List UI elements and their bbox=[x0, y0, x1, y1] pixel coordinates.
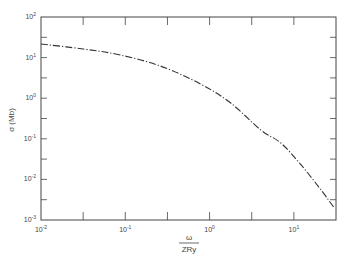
x-tick-label: 10-1 bbox=[119, 224, 131, 233]
x-tick-label: 101 bbox=[289, 224, 300, 233]
x-axis-ticks bbox=[83, 17, 294, 220]
x-tick-label: 10-2 bbox=[35, 224, 47, 233]
y-tick-label: 10-2 bbox=[24, 173, 36, 182]
x-axis-label-denominator: ZRy bbox=[182, 245, 197, 254]
y-tick-label: 102 bbox=[25, 11, 36, 20]
y-tick-label: 10-3 bbox=[24, 214, 36, 223]
y-tick-label: 10-1 bbox=[24, 133, 36, 142]
x-axis-tick-labels: 10-210-1100101 bbox=[35, 224, 300, 233]
y-axis-tick-labels: 10210110010-110-210-3 bbox=[24, 11, 36, 223]
y-tick-label: 101 bbox=[25, 52, 36, 61]
cross-section-chart: 10210110010-110-210-3 10-210-1100101 σ (… bbox=[0, 0, 347, 263]
cross-section-curve bbox=[41, 44, 334, 208]
x-tick-label: 100 bbox=[204, 224, 215, 233]
y-axis-ticks bbox=[41, 37, 336, 199]
x-axis-label-numerator: ω bbox=[186, 233, 192, 242]
y-tick-label: 100 bbox=[25, 92, 36, 101]
y-axis-label: σ (Mb) bbox=[7, 108, 16, 132]
plot-frame bbox=[41, 17, 336, 220]
